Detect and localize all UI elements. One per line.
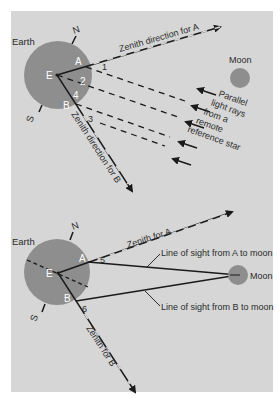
- sight-b-label: Line of sight from B to moon: [161, 302, 274, 312]
- moon-label: Moon: [229, 55, 252, 65]
- angle-label-6: 6: [82, 304, 87, 314]
- angle-label-3: 3: [88, 114, 93, 124]
- center-label-e: E: [46, 268, 53, 279]
- moon-label: Moon: [250, 271, 273, 281]
- earth-label: Earth: [12, 36, 35, 47]
- point-a-label: A: [75, 56, 82, 67]
- moon-circle: [230, 68, 250, 88]
- point-a-label: A: [79, 253, 86, 264]
- moon-parallax-diagram: N S Earth E A B Zenith direction for A Z…: [0, 0, 280, 409]
- angle-label-5: 5: [100, 255, 105, 265]
- angle-label-2: 2: [80, 76, 86, 87]
- earth-label: Earth: [12, 236, 35, 247]
- point-b-label: B: [64, 293, 71, 304]
- point-b-label: B: [63, 100, 70, 111]
- angle-label-4: 4: [73, 90, 79, 101]
- sight-a-label: Line of sight from A to moon: [161, 248, 273, 258]
- angle-label-1: 1: [102, 62, 107, 72]
- center-label-e: E: [46, 70, 53, 81]
